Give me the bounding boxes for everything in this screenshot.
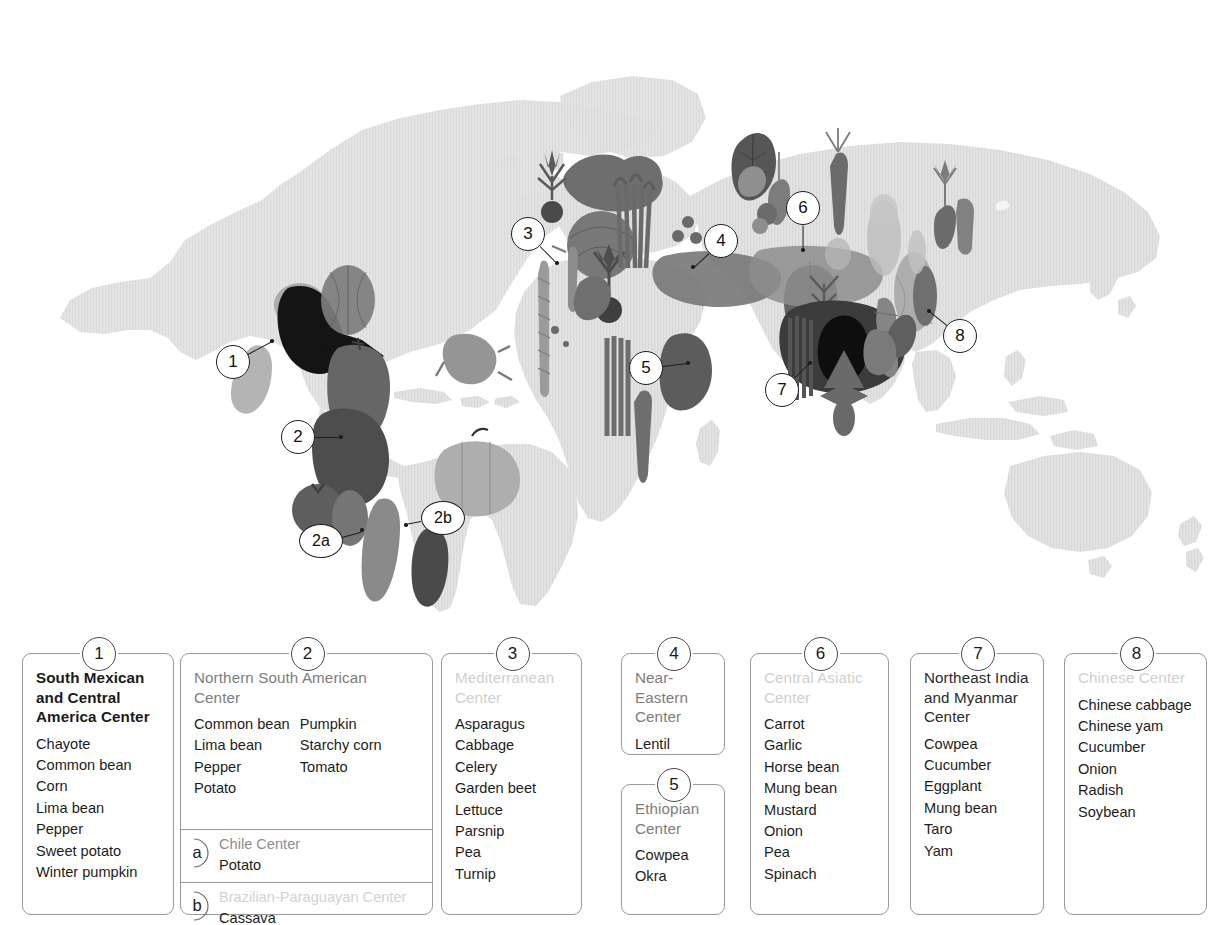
- panel-item-columns: Lentil: [635, 734, 711, 755]
- panel-item-columns: Common beanLima beanPepperPotatoPumpkinS…: [194, 714, 419, 800]
- panel-number-badge: 8: [1120, 637, 1154, 671]
- map-marker-7[interactable]: 7: [765, 373, 799, 407]
- crop-item: Chayote: [36, 734, 137, 755]
- crop-item: Okra: [635, 866, 689, 887]
- panel-item-column: ChayoteCommon beanCornLima beanPepperSwe…: [36, 734, 137, 884]
- crop-item: Carrot: [764, 714, 839, 735]
- onion-china-icon: [956, 199, 974, 255]
- subpanel-letter-badge: a: [183, 837, 215, 869]
- marker-leader-dot: [270, 339, 273, 342]
- map-marker-1[interactable]: 1: [216, 345, 250, 379]
- infographic-root: 122a2b345678 1South Mexicanand CentralAm…: [0, 0, 1231, 925]
- crop-item: Lima bean: [194, 735, 290, 756]
- marker-leader-dot: [686, 361, 689, 364]
- crop-item: Horse bean: [764, 757, 839, 778]
- crop-item: Pea: [455, 842, 536, 863]
- subpanel-letter-badge: b: [183, 890, 215, 922]
- crop-item: Winter pumpkin: [36, 862, 137, 883]
- legend-panel-2[interactable]: 2Northern South AmericanCenterCommon bea…: [180, 653, 433, 915]
- subpanel-title: Brazilian-Paraguayan Center: [219, 888, 424, 907]
- crop-item: Potato: [219, 855, 424, 875]
- panel-title: MediterraneanCenter: [455, 668, 568, 707]
- legend-panel-1[interactable]: 1South Mexicanand CentralAmerica CenterC…: [22, 653, 174, 915]
- crop-item: Lentil: [635, 734, 670, 755]
- panel-number-badge: 1: [82, 637, 116, 671]
- bean-pod-icon: [443, 334, 497, 385]
- subpanel-a[interactable]: aChile CenterPotato: [181, 829, 432, 881]
- crop-item: Garden beet: [455, 778, 536, 799]
- crop-item: Yam: [924, 841, 997, 862]
- map-marker-3[interactable]: 3: [511, 217, 545, 251]
- marker-leader-line: [802, 226, 803, 251]
- crop-item: Cassava: [219, 908, 424, 925]
- crop-item: Common bean: [36, 755, 137, 776]
- crop-item: Asparagus: [455, 714, 536, 735]
- chinese-yam-icon: [913, 266, 937, 326]
- subpanel-b[interactable]: bBrazilian-Paraguayan CenterCassava: [181, 882, 432, 925]
- crop-item: Potato: [194, 778, 290, 799]
- panel-body: Northeast Indiaand MyanmarCenterCowpeaCu…: [911, 654, 1043, 872]
- crop-item: Pepper: [36, 819, 137, 840]
- map-marker-8[interactable]: 8: [943, 319, 977, 353]
- panel-item-columns: CarrotGarlicHorse beanMung beanMustardOn…: [764, 714, 875, 885]
- crop-item: Chinese yam: [1078, 716, 1192, 737]
- turnip-icon: [551, 326, 559, 334]
- map-marker-5[interactable]: 5: [629, 351, 663, 385]
- panel-item-columns: CowpeaOkra: [635, 845, 711, 888]
- panel-item-column: CowpeaOkra: [635, 845, 689, 888]
- panel-number-badge: 5: [657, 768, 691, 802]
- crop-item: Soybean: [1078, 802, 1192, 823]
- legend-panel-5[interactable]: 5EthiopianCenterCowpeaOkra: [621, 784, 725, 915]
- panel-item-columns: Chinese cabbageChinese yamCucumberOnionR…: [1078, 695, 1193, 823]
- subpanel-letter: a: [187, 837, 207, 867]
- panel-title: Central AsiaticCenter: [764, 668, 875, 707]
- panel-number-badge: 6: [804, 637, 838, 671]
- lentil-icon: [682, 216, 694, 228]
- crop-item: Celery: [455, 757, 536, 778]
- crop-item: Turnip: [455, 864, 536, 885]
- panel-item-columns: ChayoteCommon beanCornLima beanPepperSwe…: [36, 734, 160, 884]
- panel-item-column: AsparagusCabbageCeleryGarden beetLettuce…: [455, 714, 536, 885]
- world-map: 122a2b345678: [0, 0, 1231, 636]
- map-marker-2b[interactable]: 2b: [421, 501, 465, 535]
- legend-panel-4[interactable]: 4Near-EasternCenterLentil: [621, 653, 725, 755]
- crop-item: Lima bean: [36, 798, 137, 819]
- crop-item: Starchy corn: [300, 735, 392, 756]
- subpanel-letter: b: [187, 890, 207, 920]
- world-map-svg: [0, 0, 1231, 636]
- crop-item: Cucumber: [924, 755, 997, 776]
- subpanel-title: Chile Center: [219, 835, 424, 854]
- panel-item-column: CarrotGarlicHorse beanMung beanMustardOn…: [764, 714, 839, 885]
- crop-item: Sweet potato: [36, 841, 137, 862]
- panel-title: Northern South AmericanCenter: [194, 668, 419, 707]
- legend-panel-7[interactable]: 7Northeast Indiaand MyanmarCenterCowpeaC…: [910, 653, 1044, 915]
- crop-item: Cabbage: [455, 735, 536, 756]
- panel-title: South Mexicanand CentralAmerica Center: [36, 668, 160, 727]
- map-marker-4[interactable]: 4: [704, 224, 738, 258]
- crop-item: Tomato: [300, 757, 392, 778]
- panel-title: Northeast Indiaand MyanmarCenter: [924, 668, 1030, 727]
- crop-item: Parsnip: [455, 821, 536, 842]
- legend-panel-8[interactable]: 8Chinese CenterChinese cabbageChinese ya…: [1064, 653, 1207, 915]
- marker-leader-dot: [691, 265, 694, 268]
- crop-item: Pepper: [194, 757, 290, 778]
- beet-icon-1: [541, 201, 563, 223]
- crop-item: Garlic: [764, 735, 839, 756]
- crop-item: Radish: [1078, 780, 1192, 801]
- panel-number-badge: 3: [496, 637, 530, 671]
- panel-number-badge: 7: [961, 637, 995, 671]
- crop-item: Cowpea: [635, 845, 689, 866]
- panel-body: MediterraneanCenterAsparagusCabbageCeler…: [442, 654, 581, 895]
- map-marker-2a[interactable]: 2a: [299, 524, 343, 558]
- crop-item: Cowpea: [924, 734, 997, 755]
- crop-item: Pumpkin: [300, 714, 392, 735]
- legend-panel-3[interactable]: 3MediterraneanCenterAsparagusCabbageCele…: [441, 653, 582, 915]
- panel-item-column: Lentil: [635, 734, 670, 755]
- ethiopia-blob: [660, 333, 712, 410]
- legend-panel-6[interactable]: 6Central AsiaticCenterCarrotGarlicHorse …: [750, 653, 889, 915]
- map-marker-2[interactable]: 2: [281, 420, 315, 454]
- panel-item-columns: CowpeaCucumberEggplantMung beanTaroYam: [924, 734, 1030, 862]
- crop-item: Common bean: [194, 714, 290, 735]
- map-marker-6[interactable]: 6: [786, 191, 820, 225]
- panel-item-columns: AsparagusCabbageCeleryGarden beetLettuce…: [455, 714, 568, 885]
